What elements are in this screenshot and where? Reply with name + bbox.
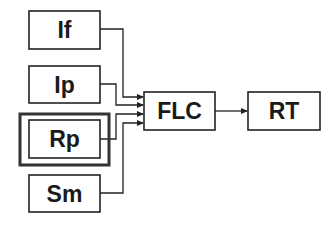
- node-rp-label: Rp: [49, 126, 80, 152]
- edge-rp-flc: [100, 114, 143, 139]
- node-rp: Rp: [20, 114, 109, 165]
- edge-sm-flc: [100, 123, 143, 193]
- node-rt: RT: [248, 92, 320, 130]
- edge-ip-flc: [100, 84, 143, 105]
- node-ip: Ip: [29, 66, 100, 103]
- node-flc: FLC: [144, 92, 215, 130]
- node-if: If: [29, 11, 100, 49]
- block-diagram: If Ip Rp Sm FLC RT: [0, 0, 335, 226]
- node-flc-label: FLC: [157, 98, 202, 124]
- node-sm-label: Sm: [47, 181, 83, 207]
- node-rt-label: RT: [269, 98, 300, 124]
- edge-if-flc: [100, 29, 143, 97]
- node-sm: Sm: [29, 175, 100, 212]
- node-ip-label: Ip: [54, 72, 74, 98]
- node-if-label: If: [57, 17, 71, 43]
